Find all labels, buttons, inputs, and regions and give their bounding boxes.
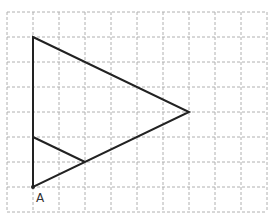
point-a-label: A xyxy=(36,191,45,205)
square-grid xyxy=(7,12,267,212)
point-a-marker xyxy=(31,185,35,189)
grid-diagram: A xyxy=(0,0,275,216)
